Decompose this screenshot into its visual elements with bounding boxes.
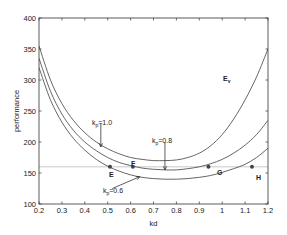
ev-region-label: Ev [223, 75, 231, 84]
y-tick-label: 100 [23, 200, 36, 209]
y-tick-label: 300 [23, 76, 36, 85]
y-tick-label: 350 [23, 45, 36, 54]
axes: 0.20.30.40.50.60.70.80.911.11.2100150200… [23, 14, 273, 216]
point-e-label: E [109, 171, 114, 178]
x-tick-label: 1 [220, 206, 224, 215]
curve-k-p-0-8 [39, 58, 268, 170]
x-tick-label: 0.6 [125, 206, 135, 215]
x-tick-label: 0.8 [171, 206, 181, 215]
point-h-label: H [256, 174, 261, 181]
y-axis-label: performance [12, 90, 21, 132]
point-g-label: G [217, 169, 223, 176]
plot-area [39, 46, 268, 189]
y-tick-label: 200 [23, 138, 36, 147]
x-tick-label: 0.7 [148, 206, 158, 215]
point-f-label: F [131, 160, 136, 167]
point-e-marker [108, 165, 112, 169]
point-h-marker [250, 165, 254, 169]
x-tick-label: 0.3 [57, 206, 67, 215]
x-tick-label: 1.1 [240, 206, 250, 215]
x-tick-label: 0.5 [102, 206, 112, 215]
x-tick-label: 0.9 [194, 206, 204, 215]
x-tick-label: 0.4 [80, 206, 90, 215]
performance-chart: 0.20.30.40.50.60.70.80.911.11.2100150200… [0, 0, 287, 235]
kp-0.6-label: kp=0.6 [103, 187, 123, 196]
y-tick-label: 250 [23, 107, 36, 116]
curve-k-p-0-6 [39, 68, 268, 180]
point-g-marker [206, 165, 210, 169]
y-tick-label: 400 [23, 14, 36, 23]
kp-0.8-label: kp=0.8 [152, 137, 172, 146]
y-tick-label: 150 [23, 169, 36, 178]
x-tick-label: 1.2 [263, 206, 273, 215]
x-axis-label: kd [150, 219, 158, 228]
kp-1.0-label: kp=1.0 [92, 119, 112, 128]
axes-box [39, 18, 268, 204]
